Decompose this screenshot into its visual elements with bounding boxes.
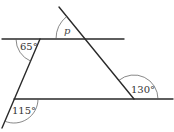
right-transversal xyxy=(59,7,134,99)
angle-label-115: 115° xyxy=(12,105,36,116)
geometry-diagram: 65° p 130° 115° xyxy=(0,0,174,132)
angle-label-130: 130° xyxy=(131,84,155,95)
angle-label-p: p xyxy=(64,25,71,36)
angle-label-65: 65° xyxy=(20,41,38,52)
